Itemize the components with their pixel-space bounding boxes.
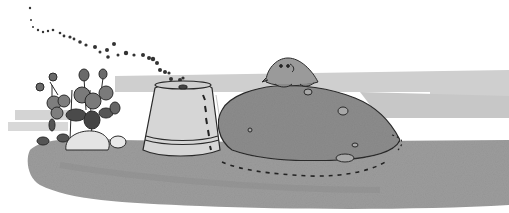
mole	[262, 58, 318, 87]
rocks	[66, 131, 126, 150]
illustration-scene	[0, 0, 509, 213]
illustration-canvas	[0, 0, 509, 213]
upturned-flower-pot	[143, 81, 224, 156]
